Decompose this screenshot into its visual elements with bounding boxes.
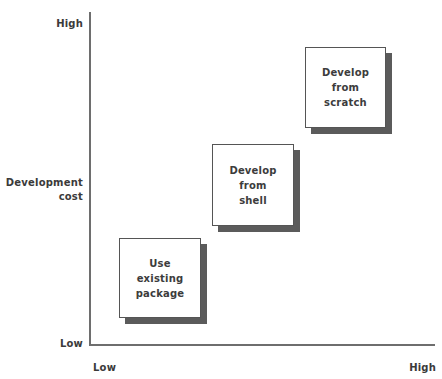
y-axis-title-line2: cost	[6, 190, 83, 204]
box-use-existing-package: Use existing package	[119, 238, 201, 318]
box-label-use-existing-package: Use existing package	[136, 256, 185, 301]
y-axis-title: Development cost	[6, 176, 83, 204]
diagram-canvas: High Low Development cost Low High Use e…	[0, 0, 442, 379]
box-label-develop-from-shell: Develop from shell	[229, 163, 276, 208]
y-axis-high-label: High	[56, 18, 83, 29]
y-axis-low-label: Low	[60, 338, 83, 349]
x-axis-high-label: High	[409, 362, 436, 373]
y-axis-line	[89, 12, 91, 346]
box-label-develop-from-scratch: Develop from scratch	[322, 65, 369, 110]
x-axis-low-label: Low	[93, 362, 116, 373]
y-axis-title-line1: Development	[6, 176, 83, 190]
x-axis-line	[89, 344, 435, 346]
box-develop-from-shell: Develop from shell	[212, 144, 294, 226]
box-develop-from-scratch: Develop from scratch	[305, 47, 386, 128]
